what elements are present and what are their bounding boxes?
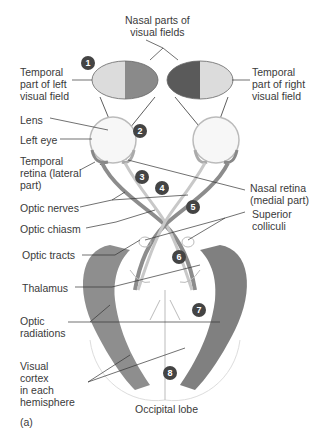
label-visual-cortex: Visual cortex in each hemisphere: [20, 360, 75, 408]
label-nasal-retina: Nasal retina (medial part): [250, 182, 309, 206]
step-badge-1: 1: [81, 56, 95, 70]
step-badge-7: 7: [192, 303, 206, 317]
panel-label: (a): [20, 416, 33, 428]
step-badge-4: 4: [155, 181, 169, 195]
step-badge-2: 2: [133, 124, 147, 138]
midline: [150, 290, 180, 400]
label-lens: Lens: [20, 114, 43, 126]
label-thalamus: Thalamus: [22, 282, 68, 294]
label-optic-nerves: Optic nerves: [20, 202, 79, 214]
step-badge-8: 8: [163, 366, 177, 380]
label-temporal-left: Temporal part of left visual field: [20, 66, 69, 102]
eyes: [90, 117, 239, 163]
step-badge-5: 5: [186, 200, 200, 214]
label-superior-colliculi: Superior colliculi: [252, 208, 292, 232]
label-temporal-retina: Temporal retina (lateral part): [20, 155, 81, 191]
left-visual-field: [90, 60, 160, 100]
step-badge-3: 3: [135, 170, 149, 184]
step-badge-6: 6: [172, 250, 186, 264]
midbrain-structures: [130, 237, 200, 283]
label-nasal-fields: Nasal parts of visual fields: [125, 14, 190, 38]
label-temporal-right: Temporal part of right visual field: [252, 66, 305, 102]
label-optic-tracts: Optic tracts: [22, 249, 75, 261]
label-occipital-lobe: Occipital lobe: [135, 403, 198, 415]
label-left-eye: Left eye: [20, 134, 57, 146]
label-optic-chiasm: Optic chiasm: [20, 223, 81, 235]
label-optic-radiations: Optic radiations: [20, 315, 66, 339]
right-visual-field: [165, 60, 235, 100]
